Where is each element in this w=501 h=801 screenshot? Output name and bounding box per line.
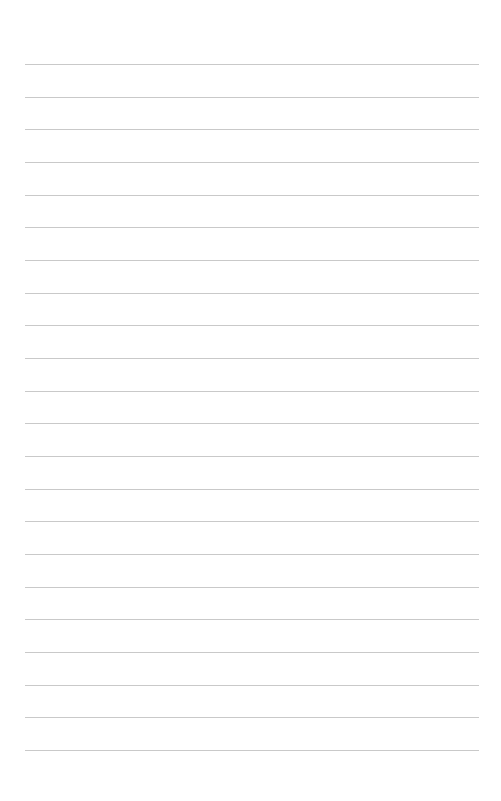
writing-line-slot[interactable] bbox=[25, 327, 479, 358]
writing-line-slot[interactable] bbox=[25, 164, 479, 195]
writing-line-slot[interactable] bbox=[25, 556, 479, 587]
writing-line-text bbox=[25, 327, 479, 358]
writing-line-slot[interactable] bbox=[25, 262, 479, 293]
writing-line-text bbox=[25, 66, 479, 97]
writing-line-slot[interactable] bbox=[25, 686, 479, 717]
writing-line-text bbox=[25, 654, 479, 685]
writing-line-slot[interactable] bbox=[25, 33, 479, 64]
writing-line-slot[interactable] bbox=[25, 719, 479, 750]
writing-line-slot[interactable] bbox=[25, 131, 479, 162]
writing-line-slot[interactable] bbox=[25, 458, 479, 489]
writing-area[interactable] bbox=[0, 0, 501, 801]
writing-line-text bbox=[25, 294, 479, 325]
writing-line-text bbox=[25, 33, 479, 64]
ruled-line bbox=[25, 227, 479, 228]
ruled-line bbox=[25, 750, 479, 751]
ruled-line bbox=[25, 162, 479, 163]
writing-line-slot[interactable] bbox=[25, 196, 479, 227]
writing-line-text bbox=[25, 360, 479, 391]
writing-line-text bbox=[25, 196, 479, 227]
writing-line-text bbox=[25, 719, 479, 750]
writing-line-slot[interactable] bbox=[25, 66, 479, 97]
writing-line-text bbox=[25, 98, 479, 129]
writing-line-slot[interactable] bbox=[25, 425, 479, 456]
writing-line-slot[interactable] bbox=[25, 523, 479, 554]
ruled-line bbox=[25, 554, 479, 555]
writing-line-text bbox=[25, 523, 479, 554]
writing-line-text bbox=[25, 458, 479, 489]
ruled-line bbox=[25, 456, 479, 457]
ruled-line bbox=[25, 652, 479, 653]
writing-line-text bbox=[25, 556, 479, 587]
writing-line-slot[interactable] bbox=[25, 392, 479, 423]
writing-line-slot[interactable] bbox=[25, 229, 479, 260]
writing-line-text bbox=[25, 229, 479, 260]
writing-line-text bbox=[25, 425, 479, 456]
writing-line-slot[interactable] bbox=[25, 588, 479, 619]
writing-line-slot[interactable] bbox=[25, 621, 479, 652]
ruled-line bbox=[25, 260, 479, 261]
writing-line-text bbox=[25, 490, 479, 521]
lined-paper-page bbox=[0, 0, 501, 801]
writing-line-slot[interactable] bbox=[25, 294, 479, 325]
ruled-line bbox=[25, 358, 479, 359]
ruled-line bbox=[25, 64, 479, 65]
writing-line-text bbox=[25, 621, 479, 652]
ruled-line bbox=[25, 129, 479, 130]
writing-line-text bbox=[25, 392, 479, 423]
ruled-line bbox=[25, 325, 479, 326]
writing-line-slot[interactable] bbox=[25, 360, 479, 391]
writing-line-slot[interactable] bbox=[25, 490, 479, 521]
writing-line-slot[interactable] bbox=[25, 98, 479, 129]
ruled-line bbox=[25, 619, 479, 620]
ruled-line bbox=[25, 717, 479, 718]
writing-line-text bbox=[25, 686, 479, 717]
ruled-line bbox=[25, 423, 479, 424]
ruled-line bbox=[25, 521, 479, 522]
writing-line-text bbox=[25, 262, 479, 293]
writing-line-text bbox=[25, 131, 479, 162]
writing-line-slot[interactable] bbox=[25, 654, 479, 685]
writing-line-text bbox=[25, 164, 479, 195]
writing-line-text bbox=[25, 588, 479, 619]
